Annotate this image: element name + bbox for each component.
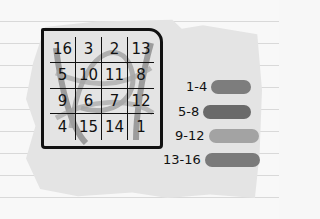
- magic-square: 16 3 2 13 5 10 11 8 9 6 7 12 4 15 14 1: [41, 28, 163, 149]
- cell: 7: [102, 89, 128, 115]
- legend-swatch: [203, 105, 251, 119]
- cell: 4: [50, 114, 76, 140]
- cell: 6: [76, 89, 102, 115]
- legend-row: 9-12: [175, 128, 259, 143]
- cell: 5: [50, 63, 76, 89]
- cell: 1: [128, 114, 154, 140]
- cell: 14: [102, 114, 128, 140]
- legend-swatch: [211, 80, 251, 94]
- legend-swatch: [209, 129, 259, 143]
- cell: 12: [128, 89, 154, 115]
- legend-label: 9-12: [175, 128, 205, 143]
- legend-label: 13-16: [163, 152, 201, 167]
- cell: 8: [128, 63, 154, 89]
- cell: 3: [76, 37, 102, 63]
- legend-row: 1-4: [186, 79, 251, 94]
- cell: 13: [128, 37, 154, 63]
- cell: 15: [76, 114, 102, 140]
- cell: 16: [50, 37, 76, 63]
- cell: 9: [50, 89, 76, 115]
- cell: 10: [76, 63, 102, 89]
- legend-label: 1-4: [186, 79, 207, 94]
- cell: 2: [102, 37, 128, 63]
- cell: 11: [102, 63, 128, 89]
- legend-row: 5-8: [178, 104, 251, 119]
- legend-label: 5-8: [178, 104, 199, 119]
- legend-swatch: [205, 153, 260, 167]
- legend-row: 13-16: [163, 152, 260, 167]
